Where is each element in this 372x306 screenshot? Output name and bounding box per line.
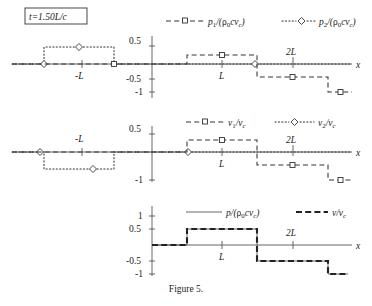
legend-marker-square-v1 (203, 119, 208, 124)
legend-marker-square-p1 (183, 18, 188, 23)
legend-label-p1: p1/(ρ0cvc) (207, 17, 245, 28)
ytick-label-neg1-panel-velocity: -1 (135, 175, 143, 185)
ytick-label-1-panel-total: 1 (138, 211, 143, 221)
figure-svg: t=1.50L/c p1/(ρ0cvc) p2/(ρ0cvc) x (0, 0, 372, 306)
xtick-label-L-panel-total: L (218, 252, 224, 262)
xtick-label-2L-panel-total: 2L (286, 228, 296, 238)
series-p1-marker-1 (220, 53, 225, 58)
series-v1-marker-2 (338, 178, 343, 183)
series-v1-marker-1 (290, 163, 295, 168)
series-p1-marker-0 (112, 62, 117, 67)
legend-label-p2: p2/(ρ0cvc) (318, 17, 356, 28)
series-p2-marker-1 (76, 44, 83, 51)
series-p2-path (12, 47, 352, 64)
time-label-text: t=1.50L/c (29, 12, 68, 22)
legend-marker-diamond-v2 (291, 119, 298, 126)
x-axis-label-panel-pressure: x (355, 60, 361, 70)
figure-container: t=1.50L/c p1/(ρ0cvc) p2/(ρ0cvc) x (0, 0, 372, 306)
ytick-label-neg1-panel-total: -1 (135, 269, 143, 279)
series-v-total-path (152, 229, 348, 274)
series-p-total-path (152, 229, 348, 274)
legend-label-v2: v2/vc (318, 118, 336, 129)
series-p1-path (12, 55, 352, 92)
xtick-label-2L-panel-velocity: 2L (286, 135, 296, 145)
panel-velocity: v1/vc v2/vc x -L L 2L 0.5 -1 (12, 118, 361, 186)
panel-total: p/(ρ0cvc) v/vc x L 2L 1 0.5 -0.5 -1 (126, 206, 361, 279)
xtick-label-L-panel-pressure: L (218, 71, 224, 81)
xtick-label-2L-panel-pressure: 2L (286, 47, 296, 57)
series-v2-path (12, 152, 352, 169)
figure-caption: Figure 5. (169, 284, 203, 294)
legend-panel-velocity: v1/vc v2/vc (186, 118, 336, 129)
series-v2-marker-1 (90, 166, 97, 173)
series-v1-marker-0 (220, 138, 225, 143)
series-p1-marker-2 (290, 75, 295, 80)
legend-marker-diamond-p2 (298, 18, 305, 25)
ytick-label-neg0p5-panel-pressure: -0.5 (126, 74, 141, 84)
ytick-label-0p5-panel-pressure: 0.5 (129, 36, 141, 46)
legend-label-v1: v1/vc (228, 118, 246, 129)
legend-panel-total: p/(ρ0cvc) v/vc (186, 208, 346, 219)
x-axis-label-panel-velocity: x (355, 148, 361, 158)
series-v1-path (12, 140, 352, 180)
series-p1-marker-3 (338, 90, 343, 95)
time-label-box: t=1.50L/c (25, 8, 87, 24)
ytick-label-neg1-panel-pressure: -1 (135, 87, 143, 97)
x-axis-label-panel-total: x (355, 241, 361, 251)
xtick-label-L-panel-velocity: L (218, 159, 224, 169)
panel-pressure: p1/(ρ0cvc) p2/(ρ0cvc) x -L L 2L 0.5 -0.5 (12, 17, 361, 99)
legend-label-p-total: p/(ρ0cvc) (225, 208, 259, 219)
xtick-label-negL-panel-velocity: -L (75, 134, 83, 144)
xtick-label-negL-panel-pressure: -L (75, 71, 83, 81)
ytick-label-0p5-panel-total: 0.5 (129, 224, 141, 234)
legend-panel-pressure: p1/(ρ0cvc) p2/(ρ0cvc) (166, 17, 356, 28)
legend-label-v-total: v/vc (332, 208, 346, 219)
ytick-label-neg0p5-panel-total: -0.5 (126, 256, 141, 266)
ytick-label-0p5-panel-velocity: 0.5 (129, 124, 141, 134)
